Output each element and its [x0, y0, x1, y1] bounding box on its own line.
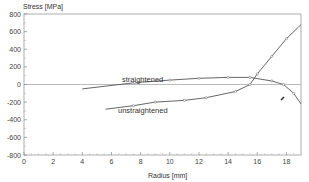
- data-marker: [293, 92, 295, 94]
- annotation-mark: [281, 97, 284, 100]
- y-tick-label: -600: [7, 134, 21, 141]
- data-marker: [249, 76, 251, 78]
- y-tick-label: 400: [9, 46, 21, 53]
- data-marker: [271, 80, 273, 82]
- y-tick-label: -200: [7, 99, 21, 106]
- label-unstraightened: unstraightened: [118, 106, 168, 115]
- data-marker: [205, 97, 207, 99]
- label-straightened: straightened: [122, 75, 163, 84]
- y-tick-label: 0: [17, 81, 21, 88]
- data-marker: [169, 79, 171, 81]
- data-marker: [198, 77, 200, 79]
- data-marker: [183, 99, 185, 101]
- y-tick-label: -800: [7, 152, 21, 159]
- x-tick-label: 16: [253, 158, 261, 165]
- y-tick-label: 600: [9, 28, 21, 35]
- data-marker: [256, 73, 258, 75]
- data-marker: [154, 101, 156, 103]
- x-tick-label: 6: [110, 158, 114, 165]
- x-tick-label: 8: [139, 158, 143, 165]
- data-marker: [249, 83, 251, 85]
- axes: 8006004002000-200-400-600-80002468101214…: [7, 11, 301, 166]
- y-axis-title: Stress [MPa]: [23, 3, 63, 11]
- x-tick-label: 4: [80, 158, 84, 165]
- data-marker: [234, 90, 236, 92]
- x-tick-label: 18: [283, 158, 291, 165]
- x-axis-title: Radius [mm]: [148, 172, 187, 180]
- x-tick-label: 0: [22, 158, 26, 165]
- stress-radius-chart: 8006004002000-200-400-600-80002468101214…: [0, 0, 309, 182]
- data-marker: [227, 76, 229, 78]
- data-marker: [271, 55, 273, 57]
- x-tick-label: 14: [224, 158, 232, 165]
- y-tick-label: 800: [9, 11, 21, 18]
- y-tick-label: -400: [7, 116, 21, 123]
- x-tick-label: 2: [51, 158, 55, 165]
- x-tick-label: 10: [166, 158, 174, 165]
- data-marker: [285, 38, 287, 40]
- y-tick-label: 200: [9, 63, 21, 70]
- x-tick-label: 12: [195, 158, 203, 165]
- series-group: [82, 25, 301, 110]
- data-marker: [282, 83, 284, 85]
- series-unstraightened: [106, 25, 301, 110]
